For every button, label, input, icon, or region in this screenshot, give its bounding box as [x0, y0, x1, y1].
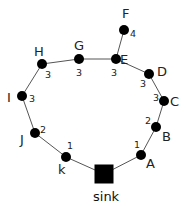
- node-weight: 2: [145, 115, 151, 126]
- node-G: G3: [74, 38, 84, 78]
- edge-H-I: [22, 64, 42, 96]
- node-label: F: [122, 6, 129, 21]
- node-H: H3: [34, 44, 51, 80]
- node-weight: 3: [76, 67, 82, 78]
- node-label: D: [157, 64, 167, 79]
- nodes-layer: A1B2C3D3E3F4G3H3I3J2k1: [7, 6, 179, 177]
- node-label: G: [74, 38, 84, 53]
- node-dot: [30, 128, 40, 138]
- node-dot: [159, 96, 169, 106]
- node-weight: 4: [130, 28, 136, 39]
- node-F: F4: [119, 6, 136, 39]
- node-C: C3: [153, 92, 179, 109]
- node-D: D3: [140, 64, 167, 89]
- node-weight: 3: [140, 78, 146, 89]
- node-A: A1: [134, 139, 155, 171]
- node-dot: [74, 54, 84, 64]
- edge-J-k: [35, 133, 66, 157]
- node-dot: [17, 91, 27, 101]
- node-dot: [136, 150, 146, 160]
- node-label: C: [170, 94, 179, 109]
- node-weight: 3: [45, 69, 51, 80]
- node-weight: 3: [29, 93, 35, 104]
- node-label: k: [58, 162, 66, 177]
- node-dot: [151, 122, 161, 132]
- node-weight: 1: [134, 139, 140, 150]
- node-label: E: [120, 52, 128, 67]
- node-I: I3: [7, 90, 35, 105]
- edge-G-H: [42, 59, 79, 64]
- node-E: E3: [111, 52, 128, 78]
- node-weight: 3: [111, 67, 117, 78]
- node-weight: 1: [67, 140, 73, 151]
- tree-diagram: A1B2C3D3E3F4G3H3I3J2k1 sink: [0, 0, 193, 210]
- node-label: H: [34, 44, 44, 59]
- node-k: k1: [58, 140, 73, 177]
- diagram-canvas: A1B2C3D3E3F4G3H3I3J2k1 sink: [0, 0, 193, 210]
- node-dot: [119, 25, 129, 35]
- sink-node: [95, 165, 114, 184]
- node-dot: [61, 152, 71, 162]
- sink-label: sink: [93, 189, 120, 204]
- node-label: B: [162, 129, 171, 144]
- node-weight: 3: [153, 92, 159, 103]
- node-label: J: [19, 132, 24, 147]
- node-dot: [37, 59, 47, 69]
- node-weight: 2: [40, 124, 46, 135]
- node-label: I: [7, 90, 11, 105]
- node-label: A: [146, 156, 155, 171]
